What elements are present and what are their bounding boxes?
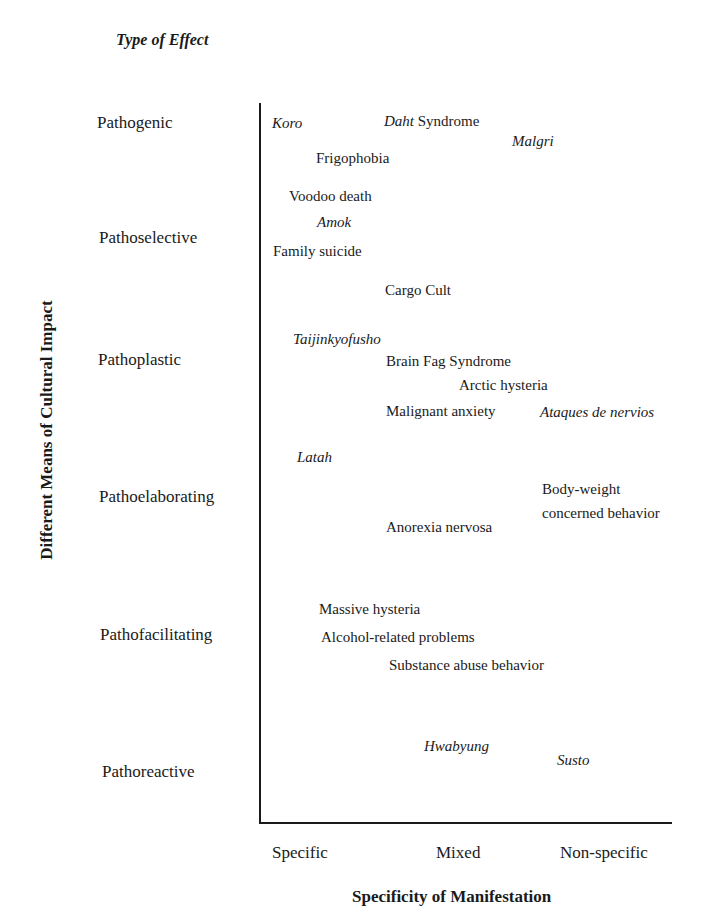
item-cargo-cult: Cargo Cult [385, 282, 451, 299]
type-of-effect-title: Type of Effect [116, 31, 208, 49]
row-label-pathoplastic: Pathoplastic [98, 350, 181, 370]
row-label-pathoselective: Pathoselective [99, 228, 197, 248]
row-label-pathoelaborating: Pathoelaborating [99, 487, 214, 507]
row-label-pathofacilitating: Pathofacilitating [100, 625, 212, 645]
item-daht-rest: Syndrome [414, 113, 479, 129]
item-koro: Koro [272, 115, 302, 132]
item-latah: Latah [297, 449, 332, 466]
item-amok: Amok [317, 214, 351, 231]
x-tick-specific: Specific [272, 843, 328, 863]
item-arctic-hysteria: Arctic hysteria [459, 377, 548, 394]
item-brain-fag: Brain Fag Syndrome [386, 353, 511, 370]
item-anorexia-nervosa: Anorexia nervosa [386, 519, 492, 536]
item-frigophobia: Frigophobia [316, 150, 389, 167]
item-voodoo-death: Voodoo death [289, 188, 372, 205]
row-label-pathoreactive: Pathoreactive [102, 762, 195, 782]
y-axis-line [259, 103, 261, 824]
item-taijinkyofusho: Taijinkyofusho [293, 331, 381, 348]
item-malgri: Malgri [512, 133, 554, 150]
item-daht-syndrome: Daht Syndrome [384, 113, 479, 130]
x-axis-line [260, 822, 672, 824]
x-tick-non-specific: Non-specific [560, 843, 648, 863]
item-body-weight-1: Body-weight [542, 481, 620, 498]
item-substance-abuse: Substance abuse behavior [389, 657, 544, 674]
y-axis-title: Different Means of Cultural Impact [37, 300, 57, 559]
x-axis-title: Specificity of Manifestation [352, 887, 551, 907]
item-alcohol-related: Alcohol-related problems [321, 629, 475, 646]
item-ataques-de-nervios: Ataques de nervios [540, 404, 654, 421]
item-family-suicide: Family suicide [273, 243, 362, 260]
item-daht-italic: Daht [384, 113, 414, 129]
row-label-pathogenic: Pathogenic [97, 113, 173, 133]
item-massive-hysteria: Massive hysteria [319, 601, 420, 618]
item-body-weight-2: concerned behavior [542, 505, 660, 522]
item-susto: Susto [557, 752, 590, 769]
item-malignant-anxiety: Malignant anxiety [386, 403, 496, 420]
x-tick-mixed: Mixed [436, 843, 480, 863]
item-hwabyung: Hwabyung [424, 738, 489, 755]
